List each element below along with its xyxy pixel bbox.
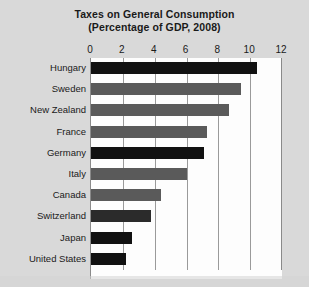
bar-row xyxy=(91,249,282,270)
bar-germany xyxy=(91,147,204,159)
category-label-canada: Canada xyxy=(0,189,86,200)
bar-japan xyxy=(91,232,132,244)
x-tick-label-10: 10 xyxy=(244,44,255,55)
bar-sweden xyxy=(91,83,241,95)
bar-new-zealand xyxy=(91,104,229,116)
category-label-united-states: United States xyxy=(0,253,86,264)
category-label-new-zealand: New Zealand xyxy=(0,104,86,115)
bar-italy xyxy=(91,168,187,180)
category-label-sweden: Sweden xyxy=(0,83,86,94)
bar-chart-figure: Taxes on General Consumption (Percentage… xyxy=(0,0,309,287)
plot-area xyxy=(90,58,282,270)
bar-row xyxy=(91,58,282,79)
bar-hungary xyxy=(91,62,257,74)
bar-row xyxy=(91,79,282,100)
x-tick-label-12: 12 xyxy=(275,44,286,55)
category-label-hungary: Hungary xyxy=(0,62,86,73)
bar-canada xyxy=(91,189,161,201)
x-tick-label-4: 4 xyxy=(151,44,157,55)
bar-row xyxy=(91,122,282,143)
bar-row xyxy=(91,206,282,227)
x-tick-label-8: 8 xyxy=(215,44,221,55)
bar-row xyxy=(91,100,282,121)
category-label-switzerland: Switzerland xyxy=(0,210,86,221)
bar-row xyxy=(91,185,282,206)
bar-france xyxy=(91,126,207,138)
category-label-japan: Japan xyxy=(0,232,86,243)
category-label-italy: Italy xyxy=(0,168,86,179)
bar-row xyxy=(91,143,282,164)
bar-row xyxy=(91,164,282,185)
category-label-france: France xyxy=(0,126,86,137)
y-axis-category-labels: HungarySwedenNew ZealandFranceGermanyIta… xyxy=(0,58,86,270)
chart-subtitle: (Percentage of GDP, 2008) xyxy=(0,21,309,34)
bar-united-states xyxy=(91,253,126,265)
bar-row xyxy=(91,228,282,249)
category-label-germany: Germany xyxy=(0,147,86,158)
x-tick-label-6: 6 xyxy=(183,44,189,55)
x-tick-label-2: 2 xyxy=(119,44,125,55)
x-tick-label-0: 0 xyxy=(87,44,93,55)
x-axis-tick-labels: 024681012 xyxy=(0,44,309,57)
bar-switzerland xyxy=(91,210,151,222)
chart-title: Taxes on General Consumption xyxy=(0,8,309,21)
page-bottom-edge xyxy=(0,276,309,287)
chart-title-block: Taxes on General Consumption (Percentage… xyxy=(0,8,309,34)
